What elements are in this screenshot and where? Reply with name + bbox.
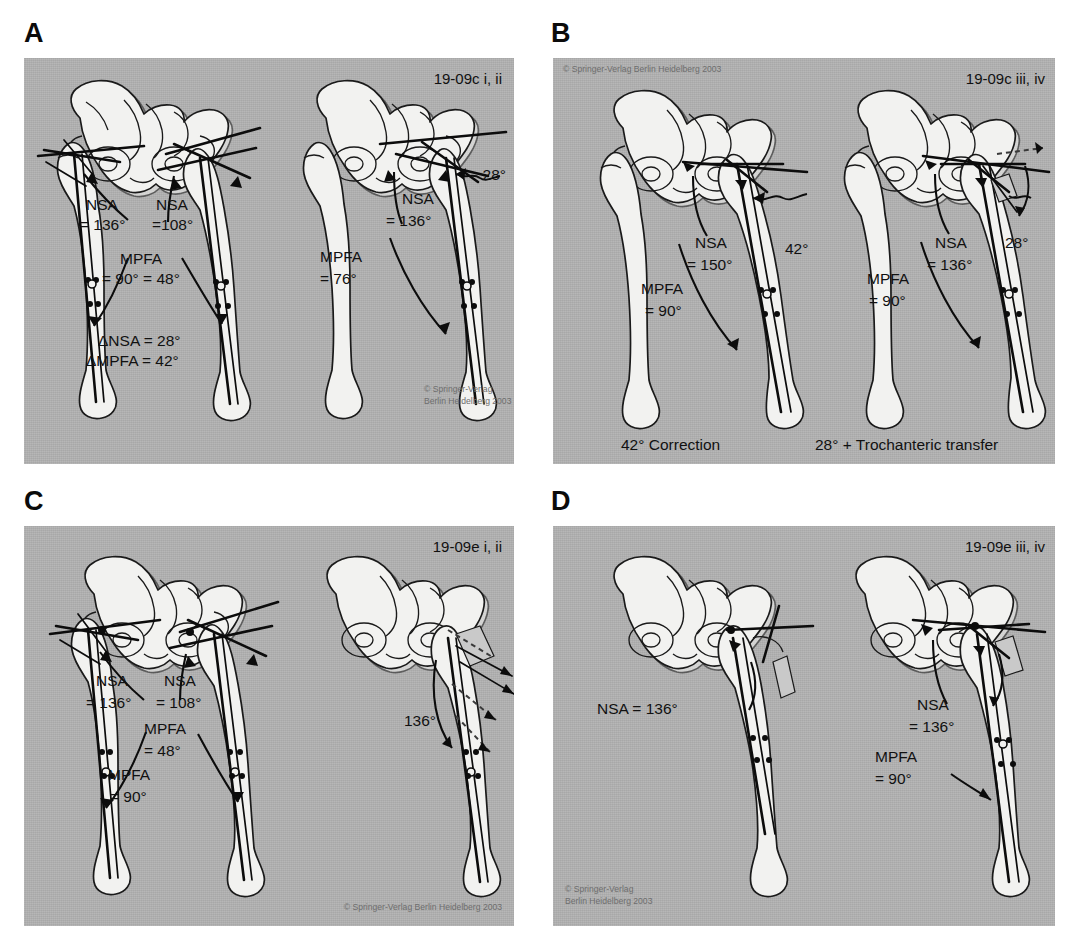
panel-a-nsa-left-line1: NSA bbox=[86, 196, 119, 213]
femur-right-a2 bbox=[429, 149, 496, 421]
panel-b2-mpfa-line2: = 90° bbox=[869, 292, 906, 309]
panel-a-figure-id: 19-09c i, ii bbox=[434, 70, 502, 87]
figure-sheet: A bbox=[0, 0, 1083, 939]
panel-d2-mpfa-line1: MPFA bbox=[875, 748, 918, 765]
panel-c-nsa-left-line2: = 136° bbox=[86, 694, 131, 711]
panel-b-illustration: NSA = 150° MPFA = 90° 42° 42° Correction bbox=[553, 58, 1055, 464]
panel-d2-nsa-line2: = 136° bbox=[909, 718, 954, 735]
panel-d: D bbox=[541, 470, 1083, 939]
panel-d-illustration: NSA = 136° bbox=[553, 526, 1055, 926]
panel-c-mpfa-left-line2: = 90° bbox=[110, 788, 147, 805]
panel-d-figure-id: 19-09e iii, iv bbox=[965, 538, 1046, 555]
panel-b1-mpfa-line1: MPFA bbox=[641, 280, 684, 297]
panel-b: B bbox=[541, 0, 1083, 470]
panel-b2-mpfa-line1: MPFA bbox=[867, 270, 910, 287]
panel-a: A bbox=[0, 0, 541, 470]
panel-c-letter: C bbox=[24, 488, 44, 515]
panel-c-illustration: NSA = 136° NSA = 108° MPFA = 48° MPFA = … bbox=[24, 526, 514, 926]
panel-c-nsa-left-line1: NSA bbox=[96, 672, 129, 689]
femur-right-a bbox=[183, 149, 250, 421]
panel-a2-nsa-line1: NSA bbox=[402, 190, 435, 207]
panel-a2-nsa-line2: = 136° bbox=[386, 212, 431, 229]
panel-d-copyright-line2: Berlin Heidelberg 2003 bbox=[565, 896, 653, 906]
panel-a2-angle-callout: 28° bbox=[483, 166, 506, 183]
panel-c-plate: NSA = 136° NSA = 108° MPFA = 48° MPFA = … bbox=[24, 526, 514, 926]
panel-b-copyright-line1: © Springer-Verlag Berlin Heidelberg 2003 bbox=[563, 64, 721, 74]
panel-b2-nsa-line2: = 136° bbox=[927, 256, 972, 273]
panel-a-plate: NSA = 136° NSA =108° MPFA = 90° = 48° ΔN… bbox=[24, 58, 514, 464]
panel-b-plate: NSA = 150° MPFA = 90° 42° 42° Correction bbox=[553, 58, 1055, 464]
panel-b2-caption: 28° + Trochanteric transfer bbox=[815, 436, 998, 453]
panel-d-letter: D bbox=[551, 488, 571, 515]
panel-a-mpfa-values: = 90° = 48° bbox=[102, 270, 180, 287]
panel-b-figure-id: 19-09c iii, iv bbox=[966, 70, 1046, 87]
panel-a-copyright-line2: Berlin Heidelberg 2003 bbox=[424, 396, 512, 406]
panel-d-plate: NSA = 136° bbox=[553, 526, 1055, 926]
panel-c-copyright-line1: © Springer-Verlag Berlin Heidelberg 2003 bbox=[344, 902, 502, 912]
femur-c-osteotomy bbox=[431, 626, 514, 897]
panel-a-illustration: NSA = 136° NSA =108° MPFA = 90° = 48° ΔN… bbox=[24, 58, 514, 464]
panel-d1-nsa: NSA = 136° bbox=[597, 700, 678, 717]
panel-b2-nsa-line1: NSA bbox=[935, 234, 968, 251]
panel-b-letter: B bbox=[551, 20, 571, 47]
panel-c2-angle-callout: 136° bbox=[404, 712, 436, 729]
panel-c-mpfa-left-line1: MPFA bbox=[108, 766, 151, 783]
femur-b-right-plain bbox=[844, 153, 903, 429]
panel-c-nsa-right-line2: = 108° bbox=[156, 694, 201, 711]
panel-d2-nsa-line1: NSA bbox=[917, 696, 950, 713]
panel-d-copyright-line1: © Springer-Verlag bbox=[565, 884, 634, 894]
panel-a-mpfa-header: MPFA bbox=[120, 250, 163, 267]
panel-b1-caption: 42° Correction bbox=[621, 436, 720, 453]
panel-c: C bbox=[0, 470, 541, 939]
panel-b1-nsa-line1: NSA bbox=[695, 234, 728, 251]
femur-d-left bbox=[718, 606, 813, 897]
panel-a-letter: A bbox=[24, 20, 44, 47]
panel-a2-mpfa-line1: MPFA bbox=[320, 248, 363, 265]
femur-c-right bbox=[197, 625, 264, 897]
panel-b1-nsa-line2: = 150° bbox=[687, 256, 732, 273]
panel-c-mpfa-right-line2: = 48° bbox=[144, 742, 181, 759]
panel-b1-angle-callout: 42° bbox=[785, 240, 808, 257]
panel-a-nsa-right-line1: NSA bbox=[156, 196, 189, 213]
panel-c-figure-id: 19-09e i, ii bbox=[433, 538, 502, 555]
panel-c-nsa-right-line1: NSA bbox=[164, 672, 197, 689]
panel-a2-mpfa-line2: = 76° bbox=[320, 270, 357, 287]
panel-b2-angle-callout: 28° bbox=[1005, 234, 1028, 251]
femur-b-right-corrected bbox=[960, 155, 1045, 429]
panel-a-delta-nsa: ΔNSA = 28° bbox=[98, 332, 180, 349]
panel-a-nsa-left-line2: = 136° bbox=[80, 216, 125, 233]
panel-b1-mpfa-line2: = 90° bbox=[645, 302, 682, 319]
panel-a-copyright-line1: © Springer-Verlag bbox=[424, 384, 493, 394]
panel-a-nsa-right-line2: =108° bbox=[152, 216, 193, 233]
panel-d2-mpfa-line2: = 90° bbox=[875, 770, 912, 787]
panel-c-mpfa-right-line1: MPFA bbox=[144, 720, 187, 737]
panel-a-delta-mpfa: ΔMPFA = 42° bbox=[86, 352, 179, 369]
